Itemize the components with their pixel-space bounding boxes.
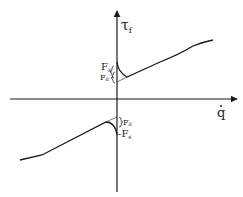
y-axis-label: τf — [121, 17, 133, 35]
lower-friction-curve — [20, 122, 117, 160]
upper-dynamic-extrapolation — [117, 77, 127, 82]
upper-dynamic-label: Fd — [100, 73, 110, 82]
friction-diagram: τf q Fs Fd Fd -Fs — [0, 0, 243, 197]
lower-dynamic-extrapolation — [106, 117, 117, 122]
svg-text:q: q — [217, 105, 225, 120]
x-axis-label: q — [217, 105, 225, 120]
upper-static-label: Fs — [101, 61, 111, 73]
lower-dynamic-label: Fd — [123, 118, 133, 127]
lower-static-label: -Fs — [118, 128, 131, 140]
upper-friction-curve — [117, 40, 213, 77]
